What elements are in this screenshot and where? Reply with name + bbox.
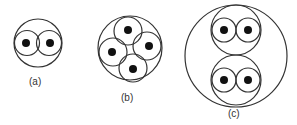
panel-b: (b) — [98, 16, 162, 103]
dot — [22, 39, 30, 47]
outer-circle — [185, 5, 287, 107]
dot — [124, 26, 132, 34]
dot — [129, 65, 137, 73]
panel-label: (b) — [121, 92, 133, 103]
panel-label: (c) — [228, 108, 240, 119]
figure: (a) (b) (c) — [0, 0, 297, 125]
dot — [145, 42, 153, 50]
dot — [244, 26, 252, 34]
panel-label: (a) — [29, 76, 41, 87]
panel-a: (a) — [14, 19, 62, 87]
outer-circle — [14, 19, 62, 67]
dot — [220, 26, 228, 34]
dot — [220, 76, 228, 84]
dot — [46, 39, 54, 47]
panel-c: (c) — [185, 5, 287, 119]
dot — [244, 76, 252, 84]
dot — [108, 48, 116, 56]
